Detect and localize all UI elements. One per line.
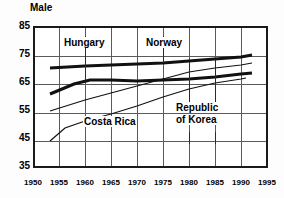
x-tick-1970: 1970 <box>124 178 150 187</box>
leader-line-korea-d <box>215 132 216 144</box>
x-tick-1965: 1965 <box>98 178 124 187</box>
series-line-costa-rica <box>50 63 252 111</box>
y-tick-45: 45 <box>6 132 30 143</box>
y-tick-35: 35 <box>6 160 30 171</box>
leader-line-korea-c <box>189 132 190 144</box>
x-tick-1995: 1995 <box>254 178 280 187</box>
x-tick-1980: 1980 <box>176 178 202 187</box>
chart-container: Male 85 75 65 55 45 35 1950 1955 1960 19… <box>0 0 284 198</box>
x-tick-1950: 1950 <box>20 178 46 187</box>
annotation-republic-of-korea-line2: of Korea <box>175 114 218 125</box>
y-tick-85: 85 <box>6 20 30 31</box>
series-paths <box>35 28 270 170</box>
leader-line-korea-a <box>189 62 190 102</box>
series-line-norway <box>50 55 252 68</box>
series-line-hungary <box>50 73 252 94</box>
leader-line-korea-b <box>215 60 216 102</box>
plot-area: Hungary Norway Costa Rica Republic of Ko… <box>33 26 268 168</box>
annotation-costa-rica: Costa Rica <box>83 116 137 127</box>
annotation-republic-of-korea-line1: Republic <box>175 102 219 113</box>
y-tick-75: 75 <box>6 48 30 59</box>
x-tick-1985: 1985 <box>202 178 228 187</box>
x-tick-1960: 1960 <box>72 178 98 187</box>
y-tick-65: 65 <box>6 76 30 87</box>
annotation-norway: Norway <box>145 37 183 48</box>
annotation-hungary: Hungary <box>63 37 106 48</box>
x-tick-1975: 1975 <box>150 178 176 187</box>
x-tick-1990: 1990 <box>228 178 254 187</box>
x-tick-1955: 1955 <box>46 178 72 187</box>
y-tick-55: 55 <box>6 104 30 115</box>
chart-title: Male <box>30 2 52 13</box>
